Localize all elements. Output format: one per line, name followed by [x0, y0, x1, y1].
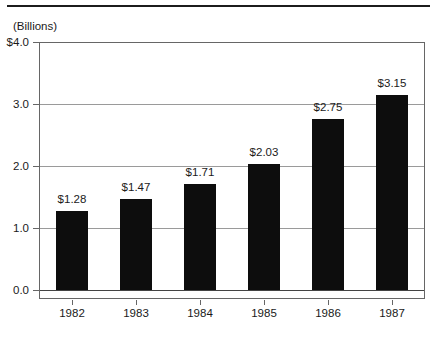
gridline — [40, 166, 424, 167]
bar — [56, 211, 88, 290]
y-axis-label: 1.0 — [0, 221, 29, 235]
x-axis-label: 1987 — [360, 306, 424, 320]
top-rule — [7, 5, 430, 7]
bar — [184, 184, 216, 290]
baseline — [40, 290, 424, 291]
bar-value-label: $1.47 — [104, 180, 168, 194]
x-axis-tick — [328, 300, 329, 305]
x-axis-label: 1982 — [40, 306, 104, 320]
x-axis-tick — [136, 300, 137, 305]
gridline — [40, 104, 424, 105]
bar — [376, 95, 408, 290]
bar-value-label: $2.03 — [232, 145, 296, 159]
y-axis-tick — [33, 104, 39, 105]
y-axis-tick — [33, 228, 39, 229]
bar-value-label: $1.71 — [168, 165, 232, 179]
chart-canvas: (Billions) $4.03.02.01.00.0$1.281982$1.4… — [0, 0, 439, 337]
x-axis-label: 1983 — [104, 306, 168, 320]
y-axis-label: 0.0 — [0, 283, 29, 297]
bar-value-label: $1.28 — [40, 192, 104, 206]
x-axis-label: 1986 — [296, 306, 360, 320]
bar — [120, 199, 152, 290]
bar-value-label: $2.75 — [296, 100, 360, 114]
y-axis-label: 3.0 — [0, 97, 29, 111]
bar-value-label: $3.15 — [360, 76, 424, 90]
y-axis-unit-label: (Billions) — [13, 19, 93, 33]
gridline — [40, 228, 424, 229]
y-axis-tick — [33, 290, 39, 291]
x-axis-tick — [264, 300, 265, 305]
y-axis-label: $4.0 — [0, 35, 29, 49]
y-axis-tick — [33, 42, 39, 43]
x-axis-label: 1985 — [232, 306, 296, 320]
x-axis-tick — [72, 300, 73, 305]
bar — [248, 164, 280, 290]
y-axis-tick — [33, 166, 39, 167]
x-axis-label: 1984 — [168, 306, 232, 320]
bar — [312, 119, 344, 290]
y-axis-label: 2.0 — [0, 159, 29, 173]
x-axis-tick — [200, 300, 201, 305]
x-axis-tick — [392, 300, 393, 305]
